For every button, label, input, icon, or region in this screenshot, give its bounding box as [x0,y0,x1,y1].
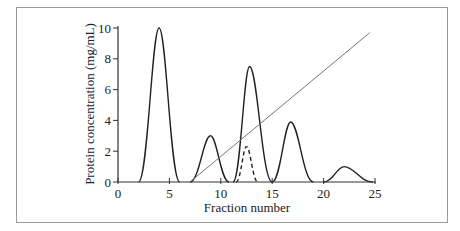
x-tick-label: 15 [266,186,279,201]
y-ticks: 0246810 [98,21,118,190]
y-tick-label: 0 [105,175,112,190]
y-tick-label: 4 [105,113,112,128]
x-tick-label: 25 [369,186,382,201]
y-tick-label: 6 [105,82,112,97]
x-tick-label: 10 [214,186,227,201]
protein-peak-line [272,122,313,182]
y-axis-title: Protein concentration (mg/mL) [82,23,97,185]
x-tick-label: 20 [317,186,330,201]
chromatography-chart: 0246810 0510152025 Fraction number Prote… [0,0,460,231]
plot-lines [139,28,373,182]
y-tick-label: 10 [98,21,111,36]
protein-peak-line [190,136,229,182]
x-axis-title: Fraction number [204,200,291,215]
protein-peak-line [233,67,272,183]
x-tick-label: 5 [166,186,173,201]
x-tick-label: 0 [115,186,122,201]
y-tick-label: 2 [105,144,112,159]
y-tick-label: 8 [105,51,112,66]
protein-peak-line [139,28,180,182]
protein-peak-line [324,167,373,182]
